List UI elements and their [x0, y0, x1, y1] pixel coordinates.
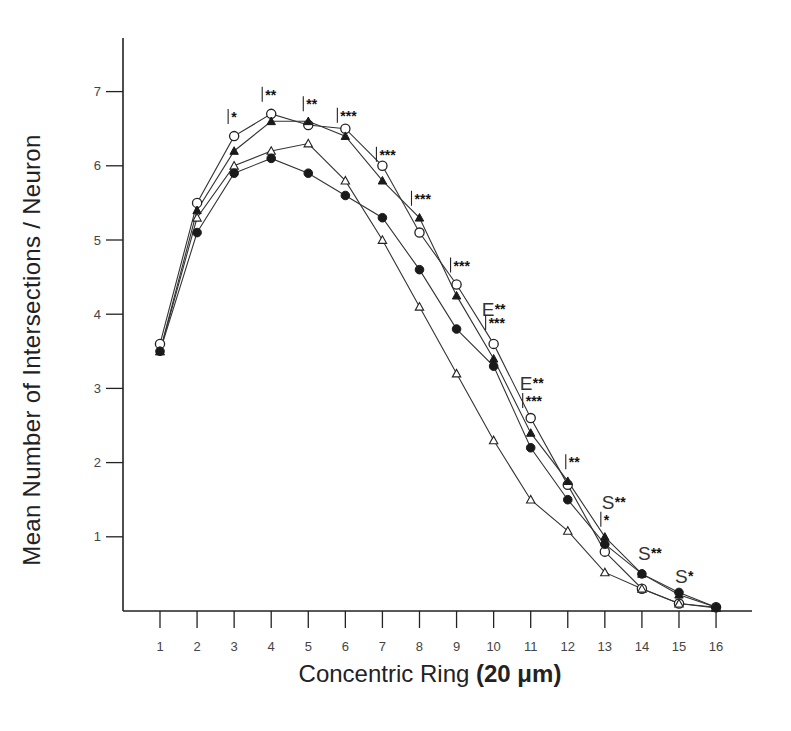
significance-annotation: S* [675, 566, 694, 587]
filled-circle-marker [489, 362, 498, 371]
annotation-stars: ** [265, 87, 276, 103]
filled-circle-marker [378, 213, 387, 222]
significance-annotation: ** [262, 87, 276, 103]
annotation-stars: *** [340, 108, 357, 124]
x-tick-label: 13 [598, 639, 612, 654]
annotation-stars: *** [526, 393, 543, 409]
y-tick-label: 6 [94, 158, 101, 173]
annotation-letter: S [675, 566, 688, 587]
significance-annotation: *** [451, 258, 471, 274]
annotation-stars: * [231, 109, 237, 125]
x-tick-label: 9 [453, 639, 460, 654]
x-tick-label: 12 [561, 639, 575, 654]
x-tick-label: 7 [379, 639, 386, 654]
significance-annotation: * [228, 109, 237, 125]
x-tick-label: 2 [193, 639, 200, 654]
annotation-stars: * [688, 568, 694, 584]
series-line-filled-triangle [160, 121, 716, 607]
annotation-letter: S [602, 492, 615, 513]
annotation-letter: E [520, 373, 533, 394]
x-tick-label: 6 [342, 639, 349, 654]
filled-circle-marker [638, 570, 647, 579]
open-circle-marker [230, 132, 239, 141]
filled-triangle-marker [601, 533, 609, 541]
x-tick-label: 10 [486, 639, 500, 654]
annotation-stars: ** [615, 494, 626, 510]
x-tick-label: 16 [709, 639, 723, 654]
filled-circle-marker [193, 228, 202, 237]
open-triangle-marker [230, 162, 238, 170]
annotation-stars: * [604, 512, 610, 528]
open-triangle-marker [415, 303, 423, 311]
series-lines [160, 114, 716, 608]
filled-circle-marker [601, 540, 610, 549]
annotation-stars: ** [306, 96, 317, 112]
open-circle-marker [526, 413, 535, 422]
filled-circle-marker [267, 154, 276, 163]
filled-circle-marker [452, 325, 461, 334]
significance-annotation: *** [337, 108, 357, 124]
x-tick-label: 5 [305, 639, 312, 654]
open-triangle-marker [527, 496, 535, 504]
filled-circle-marker [230, 169, 239, 178]
annotation-letter: S [638, 543, 651, 564]
y-tick-label: 5 [94, 233, 101, 248]
series-line-open-circle [160, 114, 716, 607]
filled-triangle-marker [527, 429, 535, 437]
significance-annotation: *** [486, 315, 506, 331]
significance-annotation: *** [411, 191, 431, 207]
significance-annotation: S** [602, 492, 626, 513]
filled-circle-marker [341, 191, 350, 200]
filled-circle-marker [675, 588, 684, 597]
significance-annotation: *** [376, 147, 396, 163]
filled-circle-marker [304, 169, 313, 178]
y-tick-label: 4 [94, 307, 101, 322]
filled-circle-marker [563, 495, 572, 504]
open-circle-marker [452, 280, 461, 289]
significance-annotation: ** [566, 454, 580, 470]
chart-canvas: 123456712345678910111213141516 *********… [0, 0, 791, 731]
annotation-stars: *** [379, 147, 396, 163]
x-tick-label: 1 [156, 639, 163, 654]
open-circle-marker [489, 339, 498, 348]
open-triangle-marker [304, 139, 312, 147]
open-circle-marker [415, 228, 424, 237]
filled-circle-marker [415, 265, 424, 274]
y-axis-label: Mean Number of Intersections / Neuron [18, 120, 46, 580]
significance-annotation: * [601, 512, 610, 528]
series-line-open-triangle [160, 144, 716, 608]
annotation-stars: ** [569, 454, 580, 470]
filled-triangle-marker [341, 132, 349, 140]
open-triangle-marker [452, 369, 460, 377]
x-tick-label: 4 [268, 639, 275, 654]
y-tick-label: 1 [94, 529, 101, 544]
open-triangle-marker [489, 436, 497, 444]
annotation-stars: *** [454, 258, 471, 274]
open-triangle-marker [378, 236, 386, 244]
annotation-stars: *** [489, 315, 506, 331]
series-markers [155, 109, 720, 612]
x-tick-label: 8 [416, 639, 423, 654]
filled-triangle-marker [489, 355, 497, 363]
annotation-stars: ** [533, 375, 544, 391]
x-axis-label: Concentric Ring (20 μm) [180, 660, 680, 688]
filled-circle-marker [712, 603, 721, 612]
significance-annotation: S** [638, 543, 662, 564]
x-tick-label: 15 [672, 639, 686, 654]
filled-circle-marker [156, 347, 165, 356]
axes: 123456712345678910111213141516 [94, 38, 752, 654]
y-tick-label: 7 [94, 84, 101, 99]
x-axis-label-unit: (20 μm) [476, 660, 561, 687]
x-tick-label: 3 [231, 639, 238, 654]
filled-triangle-marker [230, 147, 238, 155]
significance-annotations: *****************E*****E*******S***S**S* [228, 87, 694, 587]
significance-annotation: E** [520, 373, 544, 394]
x-axis-label-main: Concentric Ring [299, 660, 476, 687]
significance-annotation: *** [523, 393, 543, 409]
y-tick-label: 2 [94, 455, 101, 470]
significance-annotation: ** [303, 96, 317, 112]
series-line-filled-circle [160, 158, 716, 607]
annotation-stars: *** [414, 191, 431, 207]
x-tick-label: 14 [635, 639, 649, 654]
filled-triangle-marker [452, 291, 460, 299]
